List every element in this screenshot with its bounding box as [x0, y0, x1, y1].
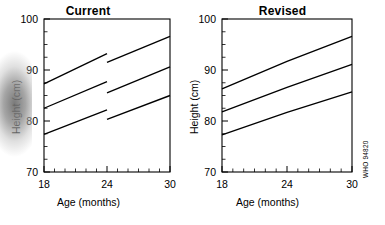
y-tick-label-90-current: 90 [8, 64, 38, 76]
x-axis-title-revised: Age (months) [236, 196, 299, 208]
percentile-curve [44, 54, 107, 84]
x-tick-label-24-revised: 24 [275, 178, 299, 190]
watermark-label: WHO 94820 [362, 140, 369, 178]
x-tick-label-24-current: 24 [95, 178, 119, 190]
chart-panel-current: Current 100 90 80 70 18 24 30 Age (month… [0, 0, 192, 225]
curve-group-current [44, 36, 170, 134]
y-tick-label-90-revised: 90 [186, 64, 216, 76]
percentile-curve [44, 110, 107, 134]
curve-group-revised [222, 36, 352, 134]
x-axis-ticks-current [44, 166, 170, 172]
plot-frame-current [44, 19, 170, 172]
y-tick-label-100-current: 100 [8, 13, 38, 25]
percentile-curve [107, 96, 170, 120]
chart-panel-revised: Revised 100 90 80 70 18 24 30 Age (month… [192, 0, 385, 225]
y-tick-label-70-current: 70 [8, 166, 38, 178]
percentile-curve [222, 64, 352, 111]
x-axis-title-current: Age (months) [57, 196, 120, 208]
percentile-curve [107, 36, 170, 62]
x-axis-ticks-revised [222, 166, 352, 172]
percentile-curve [222, 92, 352, 135]
percentile-curve [44, 82, 107, 109]
percentile-curve [222, 36, 352, 89]
plot-area-current [0, 0, 192, 225]
y-tick-label-70-revised: 70 [186, 166, 216, 178]
y-axis-title-current: Height (cm) [10, 80, 22, 134]
x-tick-label-30-revised: 30 [340, 178, 364, 190]
percentile-curve [107, 67, 170, 93]
x-tick-label-30-current: 30 [158, 178, 182, 190]
y-axis-title-revised: Height (cm) [188, 80, 200, 134]
x-tick-label-18-revised: 18 [210, 178, 234, 190]
x-tick-label-18-current: 18 [32, 178, 56, 190]
y-axis-ticks-current [44, 19, 50, 172]
plot-area-revised [192, 0, 385, 225]
growth-reference-figure: Current 100 90 80 70 18 24 30 Age (month… [0, 0, 385, 225]
y-axis-ticks-revised [222, 19, 228, 172]
plot-frame-revised [222, 19, 352, 172]
y-tick-label-100-revised: 100 [186, 13, 216, 25]
